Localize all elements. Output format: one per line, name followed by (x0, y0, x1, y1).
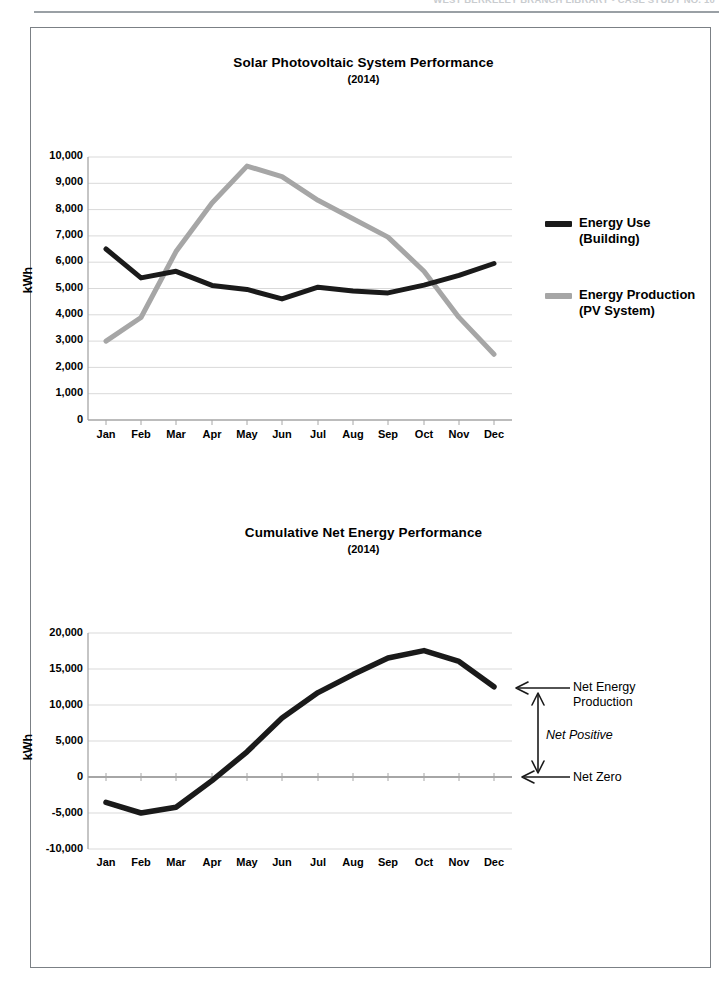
figure-2-gridlines (88, 633, 512, 849)
figure-1-xtick: Mar (156, 428, 196, 440)
figure-2-xtick: Mar (156, 856, 196, 868)
figure-1-xtick: Dec (474, 428, 514, 440)
legend-entry-energy-use: Energy Use (Building) (545, 215, 651, 247)
legend-label-energy-production: Energy Production (PV System) (579, 287, 695, 319)
figure-1-xtick: Sep (368, 428, 408, 440)
figure-2-xtick: Sep (368, 856, 408, 868)
figure-1-xtick: Nov (439, 428, 479, 440)
figure-2-xtick: Dec (474, 856, 514, 868)
figure-2-xtick: Apr (192, 856, 232, 868)
figure-1-xtick: Apr (192, 428, 232, 440)
annotation-net-positive: Net Positive (546, 728, 686, 743)
figure-1-xtick: Jul (298, 428, 338, 440)
figure-2-series-cumulative-net-energy (106, 651, 494, 813)
figure-2-xtick: Oct (404, 856, 444, 868)
figure-1-legend: Energy Use (Building) Energy Production … (545, 215, 725, 345)
legend-swatch-energy-use-icon (545, 221, 572, 227)
figure-1-x-ticks (106, 420, 494, 425)
legend-entry-energy-production: Energy Production (PV System) (545, 287, 695, 319)
running-head-text: WEST BERKELEY BRANCH LIBRARY • CASE STUD… (433, 0, 715, 5)
figure-1-xtick: May (227, 428, 267, 440)
figure-solar-pv-performance: Solar Photovoltaic System Performance (2… (0, 55, 727, 455)
figure-2-xtick: Feb (121, 856, 161, 868)
figure-2-xtick: Jul (298, 856, 338, 868)
figure-1-xtick: Jan (86, 428, 126, 440)
figure-1-series-energy-production (106, 166, 494, 354)
figure-1-xtick: Jun (262, 428, 302, 440)
figure-1-xtick: Oct (404, 428, 444, 440)
legend-swatch-energy-production-icon (545, 293, 572, 299)
figure-2-xtick: Aug (333, 856, 373, 868)
figure-1-xtick: Aug (333, 428, 373, 440)
figure-2-xtick: May (227, 856, 267, 868)
figure-cumulative-net-energy: Cumulative Net Energy Performance (2014)… (0, 525, 727, 885)
page-running-header: WEST BERKELEY BRANCH LIBRARY • CASE STUD… (0, 0, 727, 16)
figure-2-xtick: Jan (86, 856, 126, 868)
figure-2-xtick: Jun (262, 856, 302, 868)
header-rule (34, 11, 719, 13)
figure-1-series-energy-use (106, 249, 494, 299)
annotation-net-energy-production: Net Energy Production (573, 680, 713, 710)
figure-1-xtick: Feb (121, 428, 161, 440)
legend-label-energy-use: Energy Use (Building) (579, 215, 651, 247)
annotation-net-zero: Net Zero (573, 770, 713, 785)
figure-2-xtick: Nov (439, 856, 479, 868)
